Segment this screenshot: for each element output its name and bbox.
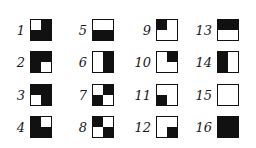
quadrant-tr: [167, 52, 177, 62]
quadrant-tr: [41, 20, 51, 30]
pattern-number-label: 12: [129, 121, 151, 135]
quadrant-tl: [31, 85, 41, 95]
quadrant-tr: [228, 117, 238, 127]
quadrant-br: [228, 127, 238, 137]
pattern-square: [92, 51, 114, 73]
pattern-number-label: 8: [65, 121, 87, 135]
quadrant-tr: [103, 52, 113, 62]
quadrant-bl: [157, 127, 167, 137]
quadrant-tl: [93, 20, 103, 30]
quadrant-tl: [31, 117, 41, 127]
quadrant-bl: [93, 30, 103, 40]
quadrant-tr: [228, 52, 238, 62]
pattern-number-label: 7: [65, 89, 87, 103]
quadrant-br: [167, 95, 177, 105]
quadrant-tl: [218, 52, 228, 62]
quadrant-br: [228, 62, 238, 72]
quadrant-tr: [41, 85, 51, 95]
quadrant-bl: [31, 127, 41, 137]
quadrant-tl: [218, 20, 228, 30]
pattern-number-label: 5: [65, 24, 87, 38]
quadrant-tl: [218, 85, 228, 95]
pattern-square: [217, 51, 239, 73]
quadrant-tl: [218, 117, 228, 127]
pattern-square: [217, 19, 239, 41]
quadrant-tr: [228, 85, 238, 95]
quadrant-br: [103, 30, 113, 40]
quadrant-tr: [103, 85, 113, 95]
pattern-square: [92, 116, 114, 138]
pattern-square: [30, 51, 52, 73]
pattern-square: [156, 84, 178, 106]
pattern-square: [217, 116, 239, 138]
quadrant-tl: [157, 20, 167, 30]
quadrant-bl: [93, 62, 103, 72]
pattern-square: [156, 116, 178, 138]
pattern-square: [217, 84, 239, 106]
quadrant-br: [103, 62, 113, 72]
quadrant-tl: [31, 52, 41, 62]
pattern-number-label: 14: [190, 56, 212, 70]
quadrant-tl: [93, 85, 103, 95]
quadrant-tr: [41, 117, 51, 127]
pattern-number-label: 2: [3, 56, 25, 70]
pattern-square: [92, 19, 114, 41]
pattern-square: [30, 19, 52, 41]
quadrant-bl: [218, 95, 228, 105]
quadrant-bl: [157, 95, 167, 105]
quadrant-bl: [218, 30, 228, 40]
quadrant-br: [167, 30, 177, 40]
quadrant-bl: [31, 62, 41, 72]
pattern-number-label: 10: [129, 56, 151, 70]
quadrant-tr: [103, 117, 113, 127]
pattern-number-label: 6: [65, 56, 87, 70]
quadrant-tl: [157, 52, 167, 62]
quadrant-br: [167, 127, 177, 137]
quadrant-bl: [157, 30, 167, 40]
quadrant-br: [41, 62, 51, 72]
pattern-number-label: 3: [3, 89, 25, 103]
quadrant-bl: [93, 127, 103, 137]
pattern-number-label: 9: [129, 24, 151, 38]
pattern-square: [156, 19, 178, 41]
pattern-number-label: 1: [3, 24, 25, 38]
quadrant-tl: [157, 85, 167, 95]
quadrant-tr: [167, 117, 177, 127]
pattern-square: [30, 84, 52, 106]
quadrant-tr: [103, 20, 113, 30]
pattern-square: [92, 84, 114, 106]
pattern-square: [30, 116, 52, 138]
quadrant-bl: [31, 95, 41, 105]
pattern-number-label: 11: [129, 89, 151, 103]
pattern-number-label: 4: [3, 121, 25, 135]
quadrant-bl: [31, 30, 41, 40]
quadrant-tr: [167, 20, 177, 30]
quadrant-tr: [41, 52, 51, 62]
quadrant-bl: [218, 62, 228, 72]
quadrant-br: [41, 127, 51, 137]
quadrant-bl: [157, 62, 167, 72]
quadrant-tr: [167, 85, 177, 95]
quadrant-tl: [157, 117, 167, 127]
quadrant-tr: [228, 20, 238, 30]
quadrant-bl: [93, 95, 103, 105]
pattern-number-label: 15: [190, 89, 212, 103]
quadrant-br: [103, 95, 113, 105]
quadrant-bl: [218, 127, 228, 137]
quadrant-tl: [93, 117, 103, 127]
pattern-number-label: 16: [190, 121, 212, 135]
quadrant-br: [41, 30, 51, 40]
pattern-number-label: 13: [190, 24, 212, 38]
pattern-square: [156, 51, 178, 73]
quadrant-tl: [93, 52, 103, 62]
quadrant-br: [228, 30, 238, 40]
quadrant-br: [41, 95, 51, 105]
quadrant-br: [167, 62, 177, 72]
quadrant-br: [103, 127, 113, 137]
quadrant-tl: [31, 20, 41, 30]
quadrant-br: [228, 95, 238, 105]
